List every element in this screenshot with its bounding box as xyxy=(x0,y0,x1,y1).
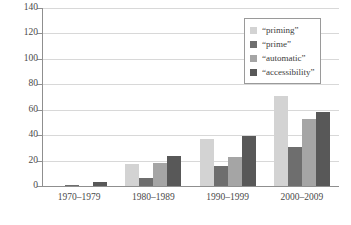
y-tick-label: 0 xyxy=(2,181,38,191)
bar-group xyxy=(42,8,116,186)
bar xyxy=(139,178,153,186)
bar xyxy=(316,112,330,186)
legend-swatch-icon xyxy=(250,69,257,76)
y-tick-label: 60 xyxy=(2,105,38,115)
x-axis-label: 2000–2009 xyxy=(265,192,339,202)
legend-item: “priming” xyxy=(250,23,314,37)
bar xyxy=(167,156,181,187)
legend-label: “automatic” xyxy=(262,54,305,63)
x-axis-label: 1990–1999 xyxy=(191,192,265,202)
legend-swatch-icon xyxy=(250,27,257,34)
bar xyxy=(242,136,256,186)
y-tick-label: 20 xyxy=(2,156,38,166)
legend-swatch-icon xyxy=(250,55,257,62)
legend-swatch-icon xyxy=(250,41,257,48)
bar xyxy=(274,96,288,186)
legend-item: “accessibility” xyxy=(250,65,314,79)
x-axis-label: 1970–1979 xyxy=(42,192,116,202)
bar xyxy=(214,166,228,186)
bar xyxy=(302,119,316,186)
legend-item: “automatic” xyxy=(250,51,314,65)
bar xyxy=(288,147,302,186)
legend-item: “prime” xyxy=(250,37,314,51)
legend-label: “accessibility” xyxy=(262,68,314,77)
chart-legend: “priming”“prime”“automatic”“accessibilit… xyxy=(244,18,321,84)
y-tick-label: 140 xyxy=(2,3,38,13)
legend-label: “priming” xyxy=(262,26,299,35)
y-tick-label: 80 xyxy=(2,79,38,89)
bar xyxy=(125,164,139,186)
bar xyxy=(200,139,214,186)
y-tick-label: 100 xyxy=(2,54,38,64)
x-axis-label: 1980–1989 xyxy=(116,192,190,202)
bar-chart: 020406080100120140 1970–19791980–1989199… xyxy=(0,0,351,225)
bar xyxy=(228,157,242,186)
y-tick-label: 120 xyxy=(2,28,38,38)
x-axis-labels: 1970–19791980–19891990–19992000–2009 xyxy=(42,192,339,202)
y-tick-label: 40 xyxy=(2,130,38,140)
legend-label: “prime” xyxy=(262,40,291,49)
bar xyxy=(93,182,107,186)
bar-group xyxy=(116,8,190,186)
x-axis-line xyxy=(42,186,339,187)
bar xyxy=(65,185,79,186)
bar xyxy=(153,163,167,186)
